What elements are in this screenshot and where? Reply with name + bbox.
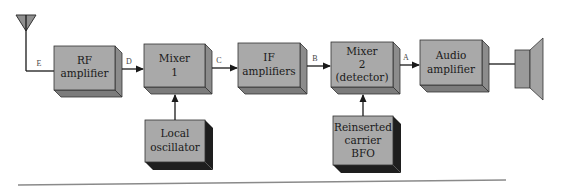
block-if-amplifiers: IF amplifiers <box>238 43 307 94</box>
block-rf-amplifier: RF amplifier <box>54 46 122 97</box>
block-mixer-2-detector: Mixer 2 (detector) <box>331 42 400 94</box>
svg-text:RF: RF <box>77 54 92 66</box>
svg-text:Reinserted: Reinserted <box>334 121 392 133</box>
signal-b: B <box>307 54 330 66</box>
speaker-icon <box>515 38 543 100</box>
svg-text:oscillator: oscillator <box>150 141 200 153</box>
svg-text:amplifier: amplifier <box>427 63 476 75</box>
svg-text:Mixer: Mixer <box>159 52 191 64</box>
signal-e: E <box>26 59 54 71</box>
block-reinserted-carrier-bfo: Reinserted carrier BFO <box>333 116 401 173</box>
svg-text:IF: IF <box>263 51 274 63</box>
svg-text:Mixer: Mixer <box>346 45 378 57</box>
signal-label-e: E <box>37 59 42 68</box>
svg-text:amplifier: amplifier <box>61 67 110 79</box>
svg-text:amplifiers: amplifiers <box>242 65 295 77</box>
signal-label-c: C <box>216 56 221 65</box>
svg-text:(detector): (detector) <box>335 71 388 83</box>
signal-d: D <box>122 57 143 69</box>
block-local-oscillator: Local oscillator <box>145 120 213 170</box>
block-mixer-1: Mixer 1 <box>144 44 212 94</box>
block-audio-amplifier: Audio amplifier <box>420 40 489 92</box>
svg-text:2: 2 <box>359 58 366 70</box>
svg-text:BFO: BFO <box>351 147 375 159</box>
signal-label-a: A <box>403 53 409 62</box>
signal-a: A <box>400 53 419 65</box>
svg-text:carrier: carrier <box>345 134 383 146</box>
svg-text:Local: Local <box>161 127 190 139</box>
antenna-icon <box>16 15 36 71</box>
signal-label-b: B <box>312 54 317 63</box>
svg-text:Audio: Audio <box>435 49 467 61</box>
bottom-rule <box>18 180 506 185</box>
signal-label-d: D <box>126 57 132 66</box>
receiver-block-diagram: E RF amplifier D Mixer 1 C IF amplifiers… <box>0 0 563 186</box>
svg-text:1: 1 <box>171 66 178 78</box>
signal-c: C <box>212 56 237 68</box>
